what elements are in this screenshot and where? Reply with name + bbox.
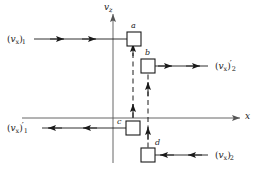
label-outgoing-2: (vx)′2	[215, 60, 236, 73]
velocity-collision-diagram: vz x a b c d (vx)1 (vx)′2 (vx)′1 (vx)2	[0, 0, 262, 170]
box-a-label: a	[131, 22, 136, 30]
index-subscript: 1	[24, 127, 28, 135]
index-subscript: 2	[230, 154, 234, 162]
v-axis-subscript: z	[109, 6, 112, 14]
label-incoming-1: (vx)1	[7, 33, 26, 46]
box-b-label: b	[145, 49, 150, 57]
v-axis-label: vz	[104, 3, 113, 14]
box-c[interactable]	[126, 121, 140, 135]
index-subscript: 1	[22, 38, 26, 46]
label-outgoing-1: (vx)′1	[7, 122, 28, 135]
label-incoming-2: (vx)2	[215, 149, 234, 162]
box-b[interactable]	[141, 59, 155, 73]
box-d-label: d	[155, 139, 160, 147]
x-axis-label: x	[245, 112, 250, 121]
box-b-rect[interactable]	[141, 59, 155, 73]
index-subscript: 2	[232, 65, 236, 73]
box-c-rect[interactable]	[126, 121, 140, 135]
box-a[interactable]	[127, 32, 141, 46]
box-d-rect[interactable]	[141, 148, 155, 162]
box-c-label: c	[117, 118, 121, 126]
box-d[interactable]	[141, 148, 155, 162]
box-a-rect[interactable]	[127, 32, 141, 46]
